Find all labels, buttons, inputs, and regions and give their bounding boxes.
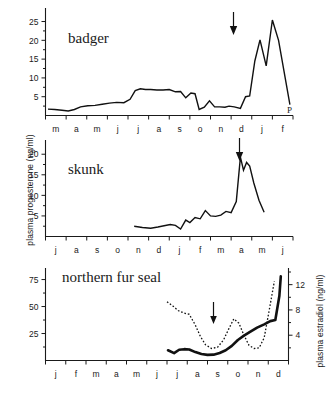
- x-tick-label-month: m: [133, 369, 140, 379]
- furseal-ytick-labels-left: 255075: [29, 275, 39, 339]
- y-tick-label: 25: [29, 329, 39, 339]
- badger-y-ticks: [42, 22, 46, 107]
- y-tick-label: 15: [29, 170, 39, 180]
- furseal-estradiol-series: [167, 281, 274, 348]
- skunk-x-ticks: [46, 237, 294, 241]
- skunk-xtick-labels: jasondjfmamj: [54, 245, 284, 255]
- furseal-progesterone-series: [168, 276, 281, 355]
- x-tick-label-month: d: [276, 369, 281, 379]
- y-tick-label-right: 12: [296, 280, 306, 290]
- x-tick-label-month: a: [195, 369, 200, 379]
- x-tick-label-month: j: [54, 369, 57, 379]
- y-tick-label-right: 4: [296, 330, 301, 340]
- x-tick-label-month: j: [54, 245, 57, 255]
- chart-panel-northern-fur-seal: 255075 4812 jfmamjjasond northern fur se…: [0, 260, 333, 395]
- y-tick-label: 10: [29, 191, 39, 201]
- furseal-y-ticks-left: [42, 280, 46, 347]
- y-tick-label: 10: [29, 73, 39, 83]
- chart-panel-badger: 510152025 mamjjasondjf badger P: [0, 0, 333, 132]
- x-tick-label-month: f: [199, 245, 202, 255]
- x-tick-label-month: a: [74, 245, 79, 255]
- furseal-plot-svg: 255075 4812 jfmamjjasond northern fur se…: [0, 260, 333, 395]
- badger-title: badger: [68, 30, 109, 46]
- furseal-xtick-labels: jfmamjjasond: [54, 369, 281, 379]
- y-tick-label: 75: [29, 275, 39, 285]
- x-tick-label-month: m: [217, 245, 224, 255]
- furseal-ytick-labels-right: 4812: [296, 280, 306, 341]
- x-tick-label-month: s: [216, 369, 220, 379]
- badger-p-marker: P: [287, 105, 292, 115]
- y-tick-label: 25: [29, 17, 39, 27]
- y-tick-label: 5: [34, 92, 39, 102]
- furseal-title: northern fur seal: [62, 269, 161, 285]
- chart-panel-skunk: 5101520 jasondjfmamj skunk: [0, 132, 333, 260]
- y-tick-label: 20: [29, 36, 39, 46]
- x-tick-label-month: s: [95, 245, 99, 255]
- x-tick-label-month: j: [155, 369, 158, 379]
- x-tick-label-month: n: [256, 369, 261, 379]
- x-tick-label-month: j: [175, 369, 178, 379]
- badger-annotation-arrow: [230, 12, 237, 35]
- x-tick-label-month: j: [281, 245, 284, 255]
- skunk-progesterone-series: [134, 157, 264, 229]
- x-tick-label-month: n: [136, 245, 141, 255]
- x-tick-label-month: j: [178, 245, 181, 255]
- y-tick-label: 15: [29, 54, 39, 64]
- hormone-profile-figure: plasma progesterone (ng/ml) plasma estra…: [0, 0, 333, 395]
- furseal-x-ticks: [46, 361, 289, 365]
- badger-axes: [42, 8, 294, 120]
- skunk-plot-svg: 5101520 jasondjfmamj skunk: [0, 132, 333, 260]
- x-tick-label-month: o: [236, 369, 241, 379]
- skunk-annotation-arrow: [236, 138, 243, 161]
- x-tick-label-month: f: [75, 369, 78, 379]
- badger-plot-svg: 510152025 mamjjasondjf badger P: [0, 0, 333, 132]
- x-tick-label-month: m: [259, 245, 266, 255]
- furseal-y-ticks-right: [289, 272, 293, 348]
- y-tick-label: 5: [34, 211, 39, 221]
- skunk-ytick-labels: 5101520: [29, 149, 39, 221]
- badger-ytick-labels: 510152025: [29, 17, 39, 102]
- y-tick-label: 20: [29, 149, 39, 159]
- x-tick-label-month: a: [239, 245, 244, 255]
- badger-x-ticks: [46, 116, 294, 120]
- skunk-title: skunk: [68, 161, 104, 177]
- y-tick-label: 50: [29, 302, 39, 312]
- x-tick-label-month: d: [157, 245, 162, 255]
- furseal-annotation-arrow: [210, 302, 217, 324]
- x-tick-label-month: o: [115, 245, 120, 255]
- x-tick-label-month: a: [114, 369, 119, 379]
- y-tick-label-right: 8: [296, 305, 301, 315]
- skunk-y-ticks: [42, 154, 46, 226]
- x-tick-label-month: m: [93, 369, 100, 379]
